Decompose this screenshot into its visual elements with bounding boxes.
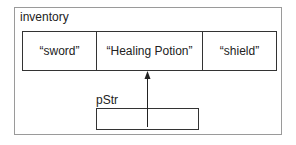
pointer-arrow-icon [0,0,296,145]
